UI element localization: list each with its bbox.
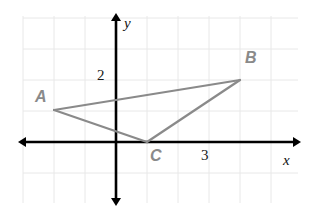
figure-canvas: A B C y x 2 3: [0, 0, 320, 219]
x-axis-arrow-right: [293, 137, 301, 147]
y-axis-label: y: [124, 16, 131, 31]
x-axis-tick-label-3: 3: [201, 148, 209, 163]
x-axis-label: x: [283, 153, 290, 168]
vertex-label-a: A: [35, 89, 47, 105]
y-axis-arrow-down: [111, 198, 121, 206]
coordinate-plane-svg: [0, 0, 320, 219]
vertex-label-b: B: [245, 50, 257, 66]
y-axis-tick-label-2: 2: [97, 68, 105, 83]
grid-lines: [23, 16, 298, 203]
vertex-label-c: C: [150, 148, 162, 164]
triangle-edge-ca: [54, 110, 147, 142]
y-axis-arrow-up: [111, 13, 121, 21]
x-axis-arrow-left: [18, 137, 26, 147]
